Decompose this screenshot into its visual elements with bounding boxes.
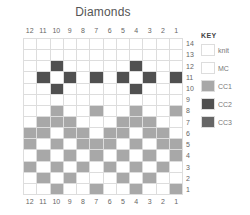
grid-cell bbox=[24, 95, 37, 106]
grid-cell bbox=[51, 117, 64, 128]
grid-cell bbox=[51, 184, 64, 195]
grid-cell bbox=[170, 106, 183, 117]
grid-cell bbox=[64, 117, 77, 128]
grid-cell bbox=[104, 95, 117, 106]
grid-cell bbox=[37, 184, 50, 195]
key-item: CC2 bbox=[201, 95, 232, 113]
color-swatch bbox=[201, 116, 215, 128]
grid-cell bbox=[24, 173, 37, 184]
color-swatch bbox=[201, 80, 215, 92]
row-label: 10 bbox=[186, 83, 194, 94]
key-item: knit bbox=[201, 41, 232, 59]
grid-cell bbox=[143, 84, 156, 95]
key-label: CC1 bbox=[218, 83, 232, 90]
grid-cell bbox=[104, 162, 117, 173]
grid-cell bbox=[64, 106, 77, 117]
grid-cell bbox=[51, 95, 64, 106]
row-label: 7 bbox=[186, 117, 194, 128]
grid-cell bbox=[90, 39, 103, 50]
grid-cell bbox=[157, 150, 170, 161]
grid-cell bbox=[130, 162, 143, 173]
grid-cell bbox=[77, 139, 90, 150]
grid-cell bbox=[37, 117, 50, 128]
grid-cell bbox=[24, 61, 37, 72]
column-label: 8 bbox=[76, 27, 89, 34]
grid-cell bbox=[104, 61, 117, 72]
grid-cell bbox=[77, 117, 90, 128]
grid-cell bbox=[37, 50, 50, 61]
column-label: 2 bbox=[156, 198, 169, 205]
row-label: 6 bbox=[186, 128, 194, 139]
grid-cell bbox=[143, 72, 156, 83]
grid-cell bbox=[51, 173, 64, 184]
grid-cell bbox=[77, 173, 90, 184]
grid-cell bbox=[37, 106, 50, 117]
legend-key: KEY knitMCCC1CC2CC3 bbox=[201, 32, 232, 131]
grid-cell bbox=[37, 84, 50, 95]
grid-cell bbox=[51, 72, 64, 83]
grid-cell bbox=[130, 72, 143, 83]
grid-cell bbox=[117, 128, 130, 139]
grid-cell bbox=[104, 39, 117, 50]
grid-cell bbox=[130, 128, 143, 139]
grid-cell bbox=[51, 39, 64, 50]
row-label: 5 bbox=[186, 139, 194, 150]
grid-cell bbox=[77, 184, 90, 195]
column-labels-top: 121110987654321 bbox=[23, 27, 183, 34]
grid-cell bbox=[90, 128, 103, 139]
grid-cell bbox=[24, 162, 37, 173]
grid-cell bbox=[90, 84, 103, 95]
grid-cell bbox=[157, 95, 170, 106]
grid-cell bbox=[90, 184, 103, 195]
grid-cell bbox=[51, 106, 64, 117]
grid-cell bbox=[143, 95, 156, 106]
grid-cell bbox=[170, 117, 183, 128]
grid-cell bbox=[157, 128, 170, 139]
grid-cell bbox=[117, 162, 130, 173]
grid-cell bbox=[117, 173, 130, 184]
grid-cell bbox=[170, 184, 183, 195]
grid-cell bbox=[157, 117, 170, 128]
grid-cell bbox=[143, 128, 156, 139]
grid-cell bbox=[24, 106, 37, 117]
grid-cell bbox=[104, 117, 117, 128]
grid-cell bbox=[170, 61, 183, 72]
row-label: 12 bbox=[186, 60, 194, 71]
grid-cell bbox=[130, 106, 143, 117]
grid-cell bbox=[143, 117, 156, 128]
grid-cell bbox=[24, 117, 37, 128]
key-label: CC3 bbox=[218, 119, 232, 126]
grid-cell bbox=[64, 39, 77, 50]
grid-cell bbox=[64, 150, 77, 161]
row-label: 11 bbox=[186, 72, 194, 83]
grid-cell bbox=[64, 84, 77, 95]
key-item: CC3 bbox=[201, 113, 232, 131]
grid-cell bbox=[143, 184, 156, 195]
grid-cell bbox=[117, 117, 130, 128]
grid-cell bbox=[104, 173, 117, 184]
grid-cell bbox=[170, 72, 183, 83]
grid-cell bbox=[51, 150, 64, 161]
grid-cell bbox=[157, 106, 170, 117]
grid-cell bbox=[64, 162, 77, 173]
grid-cell bbox=[117, 150, 130, 161]
grid-cell bbox=[130, 95, 143, 106]
grid-cell bbox=[104, 139, 117, 150]
row-label: 8 bbox=[186, 105, 194, 116]
column-label: 1 bbox=[170, 27, 183, 34]
grid-cell bbox=[157, 50, 170, 61]
grid-cell bbox=[117, 61, 130, 72]
row-label: 14 bbox=[186, 38, 194, 49]
column-label: 5 bbox=[116, 27, 129, 34]
column-label: 2 bbox=[156, 27, 169, 34]
column-label: 3 bbox=[143, 198, 156, 205]
column-label: 8 bbox=[76, 198, 89, 205]
chart-title: Diamonds bbox=[23, 5, 183, 19]
grid-cell bbox=[117, 95, 130, 106]
grid-cell bbox=[143, 162, 156, 173]
grid-cell bbox=[90, 95, 103, 106]
grid-cell bbox=[90, 61, 103, 72]
grid-cell bbox=[143, 50, 156, 61]
row-label: 4 bbox=[186, 150, 194, 161]
row-label: 13 bbox=[186, 49, 194, 60]
